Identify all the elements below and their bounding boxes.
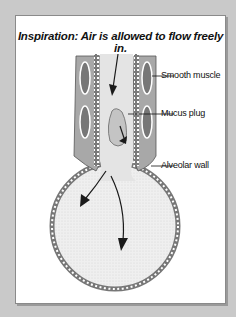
label-smooth-muscle: Smooth muscle: [161, 70, 220, 80]
diagram-panel: Inspiration: Air is allowed to flow free…: [15, 15, 226, 304]
smooth-muscle-left-upper: [80, 62, 90, 94]
label-mucus-plug: Mucus plug: [161, 108, 205, 118]
epithelium-left: [94, 54, 99, 166]
epithelium-right: [134, 54, 139, 166]
label-alveolar-wall: Alveolar wall: [161, 160, 209, 170]
smooth-muscle-right-upper: [142, 62, 152, 94]
